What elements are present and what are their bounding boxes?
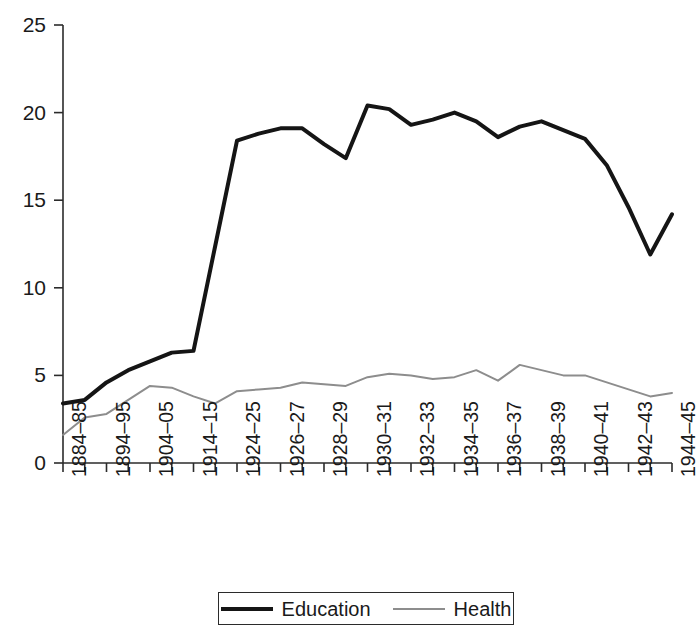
- line-chart: 0510152025 1884–851894–951904–051914–151…: [0, 0, 696, 638]
- x-axis-tick-label: 1924–25: [244, 401, 264, 477]
- x-axis-tick-label: 1936–37: [505, 401, 525, 477]
- y-axis-tick-label: 20: [6, 102, 46, 123]
- series-line-education: [63, 106, 672, 404]
- y-axis-tick-label: 5: [6, 364, 46, 385]
- y-axis-tick-label: 15: [6, 189, 46, 210]
- plot-area: [0, 0, 696, 638]
- x-axis-tick-label: 1926–27: [288, 401, 308, 477]
- x-axis-tick-label: 1942–43: [636, 401, 656, 477]
- x-axis-tick-label: 1938–39: [549, 401, 569, 477]
- x-axis-tick-label: 1930–31: [375, 401, 395, 477]
- y-axis-tick-label: 25: [6, 14, 46, 35]
- legend-line-health-icon: [393, 608, 445, 610]
- x-axis-tick-label: 1944–45: [679, 401, 696, 477]
- x-axis-tick-label: 1934–35: [462, 401, 482, 477]
- x-axis-tick-label: 1928–29: [331, 401, 351, 477]
- y-axis-tick-label: 0: [6, 452, 46, 473]
- x-axis-tick-label: 1914–15: [201, 401, 221, 477]
- x-axis-tick-label: 1894–95: [114, 401, 134, 477]
- x-axis-tick-label: 1904–05: [157, 401, 177, 477]
- legend-line-education-icon: [221, 607, 273, 611]
- legend-label-health: Health: [454, 599, 512, 619]
- legend-label-education: Education: [282, 599, 371, 619]
- x-axis-tick-label: 1932–33: [418, 401, 438, 477]
- y-axis-ticks: [54, 25, 63, 463]
- axes: [63, 25, 672, 463]
- x-axis-tick-label: 1884–85: [70, 401, 90, 477]
- y-axis-tick-label: 10: [6, 277, 46, 298]
- chart-legend: Education Health: [218, 592, 514, 625]
- legend-item-health: Health: [393, 599, 512, 619]
- legend-item-education: Education: [221, 599, 371, 619]
- x-axis-tick-label: 1940–41: [592, 401, 612, 477]
- data-series-group: [63, 106, 672, 435]
